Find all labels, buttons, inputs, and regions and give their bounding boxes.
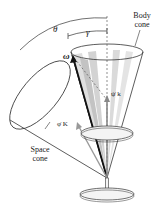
precession-cones-diagram: θ γ Body cone ω ψ̇ k φ̇ K Space cone xyxy=(0,0,163,203)
diagram-drawing xyxy=(0,0,163,203)
space-cone-pointer xyxy=(45,122,50,129)
space-cone-label-line2: cone xyxy=(26,155,54,163)
theta-label: θ xyxy=(53,25,57,33)
gamma-label: γ xyxy=(86,28,90,36)
body-cone-pointer xyxy=(135,30,140,46)
body-cone-label-line2: cone xyxy=(128,21,156,29)
phi-dot-K-label: φ̇ K xyxy=(57,120,68,128)
omega-label: ω xyxy=(63,52,70,60)
body-cone-label-line1: Body xyxy=(128,12,156,20)
theta-arc xyxy=(20,18,107,50)
psi-dot-k-label: ψ̇ k xyxy=(111,90,121,98)
space-cone-label-line1: Space xyxy=(26,146,54,154)
